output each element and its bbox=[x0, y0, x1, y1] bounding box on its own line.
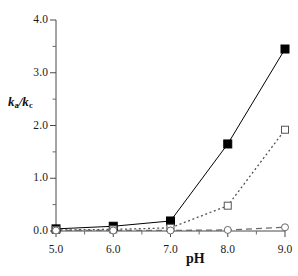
series-lines bbox=[56, 49, 285, 230]
series-line-filled-square-series bbox=[56, 49, 285, 229]
series-markers bbox=[52, 45, 289, 234]
series-line-open-square-series bbox=[56, 130, 285, 230]
y-tick-label: 4.0 bbox=[12, 13, 48, 25]
y-tick-label: 3.0 bbox=[12, 66, 48, 78]
x-tick-label: 5.0 bbox=[36, 243, 76, 255]
data-point-open-square bbox=[224, 202, 231, 209]
axes bbox=[56, 20, 285, 231]
x-tick-label: 7.0 bbox=[151, 243, 191, 255]
data-point-filled-square bbox=[167, 217, 175, 225]
data-point-open-circle bbox=[110, 227, 117, 234]
x-tick-label: 8.0 bbox=[208, 243, 248, 255]
data-point-filled-square bbox=[281, 45, 289, 53]
x-tick-label: 6.0 bbox=[93, 243, 133, 255]
data-point-filled-square bbox=[224, 140, 232, 148]
data-point-open-square bbox=[282, 126, 289, 133]
chart-figure: ka/kc pH 0.01.02.03.04.05.06.07.08.09.0 bbox=[0, 0, 298, 276]
y-tick-label: 1.0 bbox=[12, 171, 48, 183]
data-point-open-circle bbox=[282, 224, 289, 231]
data-point-open-circle bbox=[53, 227, 60, 234]
y-tick-label: 0.0 bbox=[12, 224, 48, 236]
y-tick-label: 2.0 bbox=[12, 119, 48, 131]
x-tick-label: 9.0 bbox=[265, 243, 298, 255]
data-point-open-circle bbox=[167, 227, 174, 234]
y-axis-ticks bbox=[50, 20, 56, 231]
y-axis-title: ka/kc bbox=[8, 94, 33, 110]
data-point-open-circle bbox=[224, 226, 231, 233]
